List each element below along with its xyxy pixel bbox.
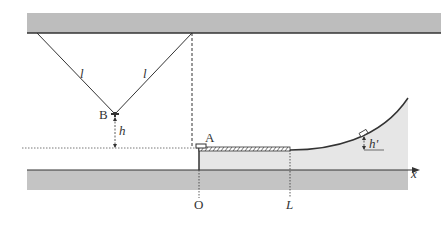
string-right [115, 33, 192, 114]
ball-b-icon [111, 112, 119, 117]
rough-surface [199, 147, 290, 151]
label-string-left: l [80, 66, 84, 81]
pendulum-track-diagram: l l B h A O L h' x [0, 0, 441, 227]
label-height-h: h [119, 123, 126, 138]
ceiling [27, 13, 441, 33]
ground [27, 170, 408, 190]
track-body [199, 98, 408, 170]
label-string-right: l [143, 66, 147, 81]
label-x-axis: x [410, 166, 417, 181]
label-point-b: B [99, 107, 108, 122]
label-height-h-prime: h' [369, 136, 379, 151]
arrow-down-icon [113, 144, 117, 148]
label-point-a: A [205, 130, 215, 145]
label-length-l: L [285, 197, 293, 212]
string-left [37, 33, 115, 114]
label-origin: O [194, 197, 203, 212]
arrow-up-icon [113, 117, 117, 121]
